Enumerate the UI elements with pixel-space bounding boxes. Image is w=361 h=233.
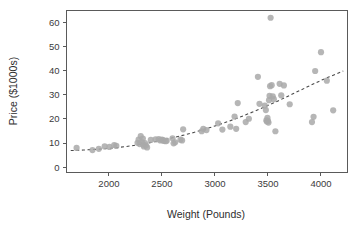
- data-point: [203, 127, 209, 133]
- scatter-plot-svg: 0102030405060 20002500300035004000 Weigh…: [0, 0, 361, 233]
- data-point: [269, 82, 275, 88]
- x-tick-label: 2500: [151, 178, 172, 189]
- data-point: [256, 101, 262, 107]
- data-point: [255, 74, 261, 80]
- y-axis-label: Price ($1000s): [7, 57, 19, 125]
- data-point: [179, 137, 185, 143]
- data-point: [164, 138, 170, 144]
- data-point: [263, 107, 269, 113]
- data-point: [144, 144, 150, 150]
- chart-figure: 0102030405060 20002500300035004000 Weigh…: [0, 0, 361, 233]
- x-tick-label: 3000: [204, 178, 225, 189]
- data-point: [268, 15, 274, 21]
- data-point: [309, 119, 315, 125]
- x-tick-label: 2000: [98, 178, 119, 189]
- data-point: [235, 100, 241, 106]
- data-point: [271, 96, 277, 102]
- data-point: [231, 113, 237, 119]
- y-tick-label: 0: [54, 162, 59, 173]
- data-point: [246, 116, 252, 122]
- data-point: [233, 126, 239, 132]
- data-point: [113, 143, 119, 149]
- y-tick-label: 30: [49, 89, 60, 100]
- data-point: [324, 78, 330, 84]
- data-point: [281, 82, 287, 88]
- data-point: [89, 147, 95, 153]
- data-point: [215, 120, 221, 126]
- data-point: [272, 128, 278, 134]
- y-tick-label: 10: [49, 137, 60, 148]
- data-point: [318, 49, 324, 55]
- data-point: [330, 107, 336, 113]
- data-point: [312, 68, 318, 74]
- data-point: [287, 101, 293, 107]
- y-tick-label: 50: [49, 41, 60, 52]
- y-tick-label: 60: [49, 17, 60, 28]
- data-point: [219, 126, 225, 132]
- data-point: [265, 119, 271, 125]
- data-point: [96, 146, 102, 152]
- data-point: [227, 124, 233, 130]
- x-tick-label: 3500: [257, 178, 278, 189]
- data-point: [278, 92, 284, 98]
- data-point: [73, 145, 79, 151]
- data-point: [172, 139, 178, 145]
- x-tick-label: 4000: [310, 178, 331, 189]
- data-point: [310, 114, 316, 120]
- y-tick-label: 40: [49, 65, 60, 76]
- y-tick-label: 20: [49, 113, 60, 124]
- x-axis-label: Weight (Pounds): [167, 208, 245, 220]
- data-point: [180, 126, 186, 132]
